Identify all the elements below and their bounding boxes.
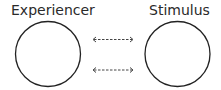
diagram-canvas <box>0 0 221 90</box>
stimulus-circle <box>145 22 210 87</box>
experiencer-circle <box>16 22 81 87</box>
bidirectional-arrow-bottom <box>93 68 133 73</box>
bidirectional-arrow-top <box>93 37 133 42</box>
